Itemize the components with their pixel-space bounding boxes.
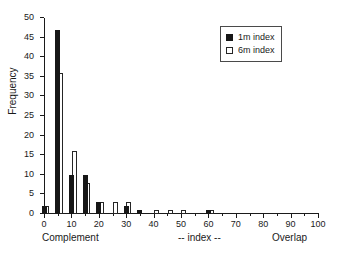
x-axis-tick-label: 10 xyxy=(66,220,76,229)
legend-item-label: 6m index xyxy=(238,46,275,55)
bar xyxy=(83,175,88,214)
y-axis-title: Frequency xyxy=(8,46,18,136)
bar xyxy=(96,202,101,214)
y-axis-tick: 25 xyxy=(40,115,44,116)
y-axis-tick: 35 xyxy=(40,76,44,77)
y-axis-tick-label: 25 xyxy=(24,111,34,120)
x-axis-tick-label: 40 xyxy=(149,220,159,229)
x-axis-minor-tick xyxy=(58,214,59,216)
y-axis-tick: 50 xyxy=(40,17,44,18)
bar xyxy=(55,30,60,214)
y-axis-tick-label: 50 xyxy=(24,13,34,22)
y-axis-tick-label: 30 xyxy=(24,91,34,100)
bar xyxy=(168,210,173,214)
y-axis-tick-label: 45 xyxy=(24,32,34,41)
x-axis-tick: 100 xyxy=(318,214,319,218)
y-axis-tick-label: 0 xyxy=(29,209,34,218)
x-axis-tick-label: 70 xyxy=(231,220,241,229)
legend-item: 1m index xyxy=(226,31,275,44)
histogram-figure: Frequency 05101520253035404550 010203040… xyxy=(0,0,338,261)
x-axis-tick-label: 0 xyxy=(41,220,46,229)
y-axis-tick-label: 15 xyxy=(24,150,34,159)
x-axis-tick-label: 30 xyxy=(121,220,131,229)
y-axis-tick: 10 xyxy=(40,174,44,175)
x-axis-tick: 70 xyxy=(236,214,237,218)
bar xyxy=(42,206,47,214)
legend: 1m index 6m index xyxy=(220,26,282,62)
x-axis-minor-tick xyxy=(167,214,168,216)
x-axis-minor-tick xyxy=(140,214,141,216)
bar xyxy=(69,175,74,214)
y-axis-tick-label: 5 xyxy=(29,189,34,198)
y-axis-tick: 15 xyxy=(40,154,44,155)
x-axis-minor-tick xyxy=(113,214,114,216)
y-axis-tick-label: 10 xyxy=(24,169,34,178)
bar xyxy=(113,202,118,214)
x-axis-tick-label: 90 xyxy=(286,220,296,229)
x-axis-minor-tick xyxy=(250,214,251,216)
x-axis-caption-middle: -- index -- xyxy=(178,233,221,243)
x-axis-minor-tick xyxy=(277,214,278,216)
y-axis-tick-label: 35 xyxy=(24,71,34,80)
y-axis-tick-label: 40 xyxy=(24,52,34,61)
x-axis-tick: 10 xyxy=(71,214,72,218)
bar xyxy=(137,210,142,214)
y-axis-tick: 40 xyxy=(40,56,44,57)
x-axis-tick: 40 xyxy=(154,214,155,218)
y-axis-tick: 45 xyxy=(40,37,44,38)
x-axis-minor-tick xyxy=(85,214,86,216)
x-axis-tick: 0 xyxy=(44,214,45,218)
bar xyxy=(124,206,129,214)
filled-square-icon xyxy=(226,34,233,41)
legend-item: 6m index xyxy=(226,44,275,57)
bar xyxy=(206,210,211,214)
x-axis-tick-label: 50 xyxy=(176,220,186,229)
y-axis-tick: 30 xyxy=(40,95,44,96)
x-axis-tick: 60 xyxy=(208,214,209,218)
x-axis-caption-right: Overlap xyxy=(272,233,307,243)
legend-item-label: 1m index xyxy=(238,33,275,42)
x-axis-minor-tick xyxy=(222,214,223,216)
x-axis-tick-label: 80 xyxy=(258,220,268,229)
x-axis-caption-left: Complement xyxy=(42,233,99,243)
x-axis-tick: 20 xyxy=(99,214,100,218)
x-axis-tick: 30 xyxy=(126,214,127,218)
open-square-icon xyxy=(226,47,233,54)
y-axis-tick: 20 xyxy=(40,135,44,136)
bar xyxy=(154,210,159,214)
x-axis-tick-label: 100 xyxy=(310,220,325,229)
x-axis-minor-tick xyxy=(195,214,196,216)
x-axis-tick: 50 xyxy=(181,214,182,218)
x-axis-tick-label: 20 xyxy=(94,220,104,229)
y-axis-tick-label: 20 xyxy=(24,130,34,139)
bar xyxy=(181,210,186,214)
y-axis-tick: 5 xyxy=(40,193,44,194)
x-axis-tick: 90 xyxy=(291,214,292,218)
x-axis-tick-label: 60 xyxy=(203,220,213,229)
x-axis-tick: 80 xyxy=(263,214,264,218)
x-axis-minor-tick xyxy=(304,214,305,216)
